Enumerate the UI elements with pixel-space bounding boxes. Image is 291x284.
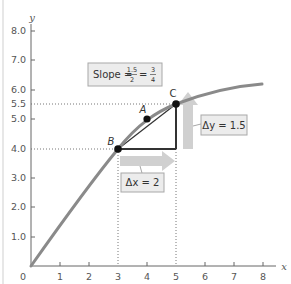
y-tick-label: 6.0 xyxy=(11,84,26,95)
slope-num2: 3 xyxy=(151,66,155,74)
slope-eq: = xyxy=(139,69,147,80)
delta-x-label: Δx = 2 xyxy=(126,177,160,188)
x-tick-label: 6 xyxy=(202,271,208,282)
y-tick-label: 8.0 xyxy=(11,25,26,36)
delta-x-annotation: Δx = 2 xyxy=(121,166,164,192)
x-tick-label: 1 xyxy=(57,271,63,282)
chart: 1.0 2.0 3.0 4.0 5.0 5.5 6.0 7.0 8.0 0 1 … xyxy=(0,0,291,284)
x-tick-label: 3 xyxy=(115,271,121,282)
delta-y-label: Δy = 1.5 xyxy=(202,120,245,131)
slope-den1: 2 xyxy=(130,76,134,84)
x-tick-label: 0 xyxy=(20,271,26,282)
y-tick-label: 7.0 xyxy=(11,54,26,65)
x-tick-label: 5 xyxy=(173,271,179,282)
y-tick-label: 2.0 xyxy=(11,201,26,212)
point-a xyxy=(143,115,150,122)
axes xyxy=(31,24,276,266)
y-tick-label: 3.0 xyxy=(11,172,26,183)
point-c-label: C xyxy=(170,88,177,99)
x-axis-title: x xyxy=(281,261,287,272)
x-tick-labels: 0 1 2 3 4 5 6 7 8 xyxy=(20,271,266,282)
slope-num1: 1.5 xyxy=(127,66,137,74)
x-tick-label: 7 xyxy=(231,271,237,282)
point-b-label: B xyxy=(108,136,115,147)
y-tick-label: 1.0 xyxy=(11,231,26,242)
x-tick-label: 2 xyxy=(86,271,92,282)
point-c xyxy=(172,100,180,108)
x-tick-label: 4 xyxy=(144,271,150,282)
y-tick-label: 5.0 xyxy=(11,113,26,124)
delta-y-annotation: Δy = 1.5 xyxy=(193,115,247,135)
slope-den2: 4 xyxy=(151,76,155,84)
delta-x-arrow xyxy=(120,151,175,171)
slope-triangle xyxy=(118,104,176,149)
x-tick-label: 8 xyxy=(260,271,266,282)
y-tick-label: 5.5 xyxy=(11,98,26,109)
point-a-label: A xyxy=(139,104,147,115)
slope-annotation: Slope = 1.5 2 = 3 4 xyxy=(88,63,162,86)
y-tick-labels: 1.0 2.0 3.0 4.0 5.0 5.5 6.0 7.0 8.0 xyxy=(11,25,26,242)
y-axis-title: y xyxy=(28,12,35,23)
point-b xyxy=(114,145,122,153)
y-tick-label: 4.0 xyxy=(11,143,26,154)
